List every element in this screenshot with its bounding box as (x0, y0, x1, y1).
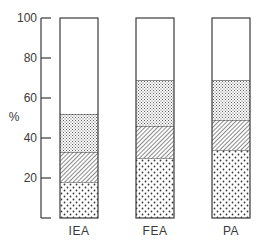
bar-segment-pa-3 (212, 80, 250, 120)
y-tick-label-20: 20 (24, 171, 38, 185)
bars (60, 18, 250, 218)
bar-segment-pa-2 (212, 120, 250, 150)
bar-segment-fea-1 (136, 158, 174, 218)
y-tick-label-40: 40 (24, 131, 38, 145)
bar-segment-pa-4 (212, 18, 250, 80)
bar-fea (136, 18, 174, 218)
bar-segment-fea-2 (136, 126, 174, 158)
bar-segment-fea-4 (136, 18, 174, 80)
stacked-bar-chart: 20406080100 % IEAFEAPA (0, 0, 263, 245)
bar-segment-fea-3 (136, 80, 174, 126)
y-tick-label-60: 60 (24, 91, 38, 105)
y-tick-label-100: 100 (17, 11, 37, 25)
x-tick-label-pa: PA (223, 224, 239, 238)
bar-iea (60, 18, 98, 218)
bar-segment-iea-2 (60, 152, 98, 182)
bar-segment-iea-3 (60, 114, 98, 152)
x-tick-label-iea: IEA (69, 224, 90, 238)
x-tick-label-fea: FEA (143, 224, 168, 238)
bar-segment-iea-1 (60, 182, 98, 218)
y-axis-label: % (9, 110, 20, 124)
y-ticks: 20406080100 (17, 11, 51, 218)
category-labels: IEAFEAPA (69, 224, 239, 238)
bar-segment-iea-4 (60, 18, 98, 114)
bar-pa (212, 18, 250, 218)
y-tick-label-80: 80 (24, 51, 38, 65)
bar-segment-pa-1 (212, 150, 250, 218)
